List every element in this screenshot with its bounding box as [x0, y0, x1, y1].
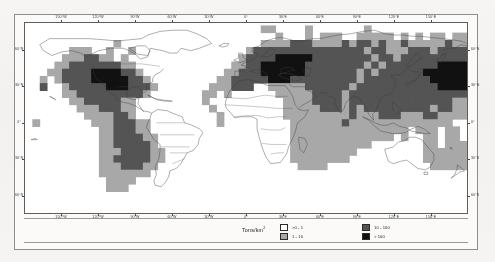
- legend-column-1: >0 - 11 - 10: [280, 223, 303, 242]
- lon-tick-mark-bottom: [98, 214, 99, 216]
- lon-tick-mark-top: [172, 20, 173, 22]
- lat-tick-mark-right: [468, 50, 470, 51]
- legend-swatch: [362, 233, 370, 240]
- legend-swatch: [280, 224, 288, 231]
- coastline-path: [219, 43, 229, 47]
- map-panel[interactable]: [24, 22, 468, 214]
- country-border-path: [225, 95, 288, 99]
- lon-tick-label-top: 90°W: [130, 16, 139, 20]
- lon-tick-label-top: 0°: [244, 16, 248, 20]
- legend-entry: 10 - 100: [362, 223, 390, 231]
- lon-tick-mark-top: [135, 20, 136, 22]
- lon-tick-mark-bottom: [209, 214, 210, 216]
- lon-tick-mark-top: [209, 20, 210, 22]
- coastline-path: [424, 172, 428, 174]
- coastline-path: [385, 137, 434, 169]
- coastline-path: [50, 96, 56, 100]
- lat-tick-label-left: 60°N: [15, 48, 21, 52]
- lon-tick-mark-bottom: [320, 214, 321, 216]
- lat-tick-label-right: 60°S: [471, 194, 479, 198]
- lon-tick-mark-bottom: [394, 214, 395, 216]
- legend-bottom-rule: [24, 242, 468, 243]
- country-border-path: [261, 128, 286, 130]
- lat-tick-mark-left: [22, 159, 24, 160]
- lon-tick-mark-bottom: [283, 214, 284, 216]
- coastline-path: [280, 67, 295, 73]
- coastline-path: [304, 67, 311, 77]
- lat-tick-label-left: 30°N: [15, 85, 21, 89]
- coastline-path: [278, 74, 301, 81]
- legend-title-superscript: 2: [263, 226, 265, 230]
- lon-tick-label-top: 90°E: [353, 16, 361, 20]
- legend-entry: 1 - 10: [280, 233, 303, 241]
- lat-tick-mark-right: [468, 123, 470, 124]
- coastline-path: [234, 53, 247, 63]
- legend-label: >0 - 1: [292, 225, 303, 230]
- legend-label: 1 - 10: [292, 234, 303, 239]
- lon-tick-label-top: 150°E: [426, 16, 436, 20]
- coastline-path: [289, 84, 316, 108]
- coastline-path: [148, 95, 173, 101]
- lon-tick-mark-bottom: [61, 214, 62, 216]
- coastline-path: [320, 53, 422, 120]
- lat-tick-label-right: 0°: [471, 121, 475, 125]
- country-border-path: [271, 153, 284, 154]
- coastline-path: [147, 110, 203, 187]
- lon-tick-mark-bottom: [172, 214, 173, 216]
- lon-tick-mark-bottom: [357, 214, 358, 216]
- coastline-overlay: [25, 23, 467, 213]
- lon-tick-label-top: 150°W: [55, 16, 66, 20]
- lon-tick-mark-top: [283, 20, 284, 22]
- country-border-path: [262, 143, 287, 144]
- legend-top-rule: [24, 218, 468, 219]
- lat-tick-mark-left: [22, 123, 24, 124]
- lat-tick-label-left: 30°S: [15, 158, 21, 162]
- lat-tick-mark-right: [468, 159, 470, 160]
- lon-tick-mark-top: [246, 20, 247, 22]
- lon-tick-mark-top: [431, 20, 432, 22]
- lon-tick-label-top: 30°W: [204, 16, 213, 20]
- coastline-path: [392, 101, 401, 114]
- legend-label: 10 - 100: [374, 225, 390, 230]
- country-border-path: [225, 105, 293, 109]
- legend-title-text: Tons/km: [242, 227, 263, 233]
- lon-tick-mark-top: [98, 20, 99, 22]
- lat-tick-mark-left: [22, 86, 24, 87]
- coastline-path: [261, 47, 276, 57]
- map-legend: Tons/km2 >0 - 11 - 10 10 - 100> 100: [24, 218, 468, 243]
- lat-tick-mark-left: [22, 196, 24, 197]
- coastline-path: [450, 147, 452, 149]
- legend-column-2: 10 - 100> 100: [362, 223, 390, 242]
- coastline-path: [94, 65, 144, 112]
- legend-label: > 100: [374, 234, 385, 239]
- figure-frame: 150°W150°W120°W120°W90°W90°W60°W60°W30°W…: [14, 14, 478, 250]
- lat-tick-label-left: 60°S: [15, 194, 21, 198]
- lat-tick-label-right: 60°N: [471, 48, 479, 52]
- coastline-path: [250, 70, 268, 77]
- coastline-path: [442, 45, 467, 51]
- legend-swatch: [280, 233, 288, 240]
- lon-tick-mark-bottom: [135, 214, 136, 216]
- lon-tick-mark-bottom: [246, 214, 247, 216]
- lon-tick-mark-top: [394, 20, 395, 22]
- lon-tick-label-top: 120°W: [92, 16, 103, 20]
- coastline-path: [225, 80, 308, 164]
- coastline-path: [451, 165, 464, 178]
- country-border-path: [99, 64, 160, 66]
- lat-tick-mark-right: [468, 196, 470, 197]
- lat-tick-mark-left: [22, 50, 24, 51]
- coastline-path: [127, 69, 164, 113]
- lon-tick-label-top: 120°E: [389, 16, 399, 20]
- coastline-path: [129, 46, 150, 56]
- lon-tick-mark-top: [320, 20, 321, 22]
- coastline-path: [299, 137, 308, 153]
- lon-tick-mark-top: [357, 20, 358, 22]
- coastline-path: [436, 53, 446, 63]
- lat-tick-mark-right: [468, 86, 470, 87]
- legend-entry: >0 - 1: [280, 223, 303, 231]
- legend-title: Tons/km2: [242, 226, 265, 233]
- lon-tick-mark-top: [61, 20, 62, 22]
- coastline-path: [40, 30, 212, 59]
- lon-tick-label-top: 60°E: [316, 16, 324, 20]
- coastline-path: [406, 65, 424, 85]
